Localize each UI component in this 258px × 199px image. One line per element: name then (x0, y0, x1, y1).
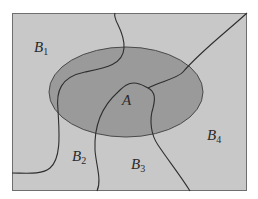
label-a: A (121, 92, 132, 108)
partition-diagram: B1 A B2 B3 B4 (0, 0, 258, 199)
